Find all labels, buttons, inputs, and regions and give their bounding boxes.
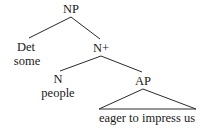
terminal-people: people xyxy=(41,87,74,100)
node-det: Det xyxy=(17,41,35,54)
node-np: NP xyxy=(63,3,79,16)
node-n-bar: N+ xyxy=(93,42,109,55)
terminal-some: some xyxy=(14,55,40,68)
branch-np-to-det xyxy=(29,17,71,38)
branch-np-to-nbar xyxy=(71,17,100,39)
branch-nbar-to-n xyxy=(60,56,101,71)
ap-triangle xyxy=(99,89,196,109)
node-ap: AP xyxy=(135,75,151,88)
syntax-tree-figure: NP Det N+ N AP some people eager to impr… xyxy=(0,0,207,128)
node-n: N xyxy=(53,73,62,86)
branch-nbar-to-ap xyxy=(101,56,142,72)
terminal-eager-to-impress-us: eager to impress us xyxy=(99,112,195,125)
